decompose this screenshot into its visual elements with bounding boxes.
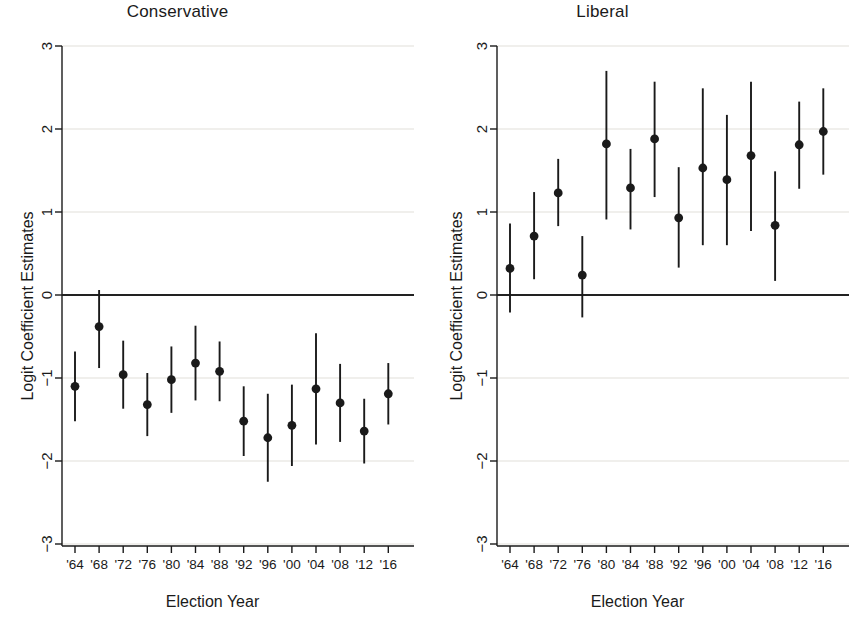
- plot-area-conservative: 3210−1−2−3'64'68'72'76'80'84'88'92'96'00…: [0, 0, 425, 617]
- svg-text:−1: −1: [38, 369, 55, 386]
- svg-text:'96: '96: [259, 557, 277, 572]
- svg-text:−3: −3: [38, 535, 55, 552]
- x-axis-label-liberal: Election Year: [425, 593, 850, 611]
- svg-text:'00: '00: [283, 557, 301, 572]
- svg-text:'76: '76: [574, 557, 592, 572]
- svg-text:'04: '04: [742, 557, 760, 572]
- panel-liberal: Liberal Logit Coefficient Estimates 3210…: [425, 0, 850, 617]
- svg-text:'16: '16: [380, 557, 398, 572]
- svg-text:2: 2: [38, 125, 55, 133]
- svg-text:'84: '84: [622, 557, 640, 572]
- panel-conservative: Conservative Logit Coefficient Estimates…: [0, 0, 425, 617]
- svg-text:'92: '92: [670, 557, 688, 572]
- svg-text:'68: '68: [90, 557, 108, 572]
- svg-text:'12: '12: [790, 557, 808, 572]
- svg-text:−2: −2: [38, 452, 55, 469]
- svg-text:−1: −1: [473, 369, 490, 386]
- x-axis-label-conservative: Election Year: [0, 593, 480, 611]
- svg-text:'80: '80: [163, 557, 181, 572]
- svg-text:'92: '92: [235, 557, 253, 572]
- svg-text:'16: '16: [815, 557, 833, 572]
- svg-text:1: 1: [473, 208, 490, 216]
- svg-text:'88: '88: [211, 557, 229, 572]
- svg-text:'08: '08: [766, 557, 784, 572]
- svg-text:0: 0: [473, 291, 490, 299]
- svg-text:2: 2: [473, 125, 490, 133]
- svg-text:'96: '96: [694, 557, 712, 572]
- svg-text:'72: '72: [549, 557, 567, 572]
- svg-text:'64: '64: [66, 557, 84, 572]
- svg-text:3: 3: [473, 42, 490, 50]
- svg-text:'08: '08: [331, 557, 349, 572]
- svg-text:'12: '12: [355, 557, 373, 572]
- svg-text:'72: '72: [114, 557, 132, 572]
- svg-text:'80: '80: [598, 557, 616, 572]
- svg-text:'76: '76: [139, 557, 157, 572]
- svg-text:−2: −2: [473, 452, 490, 469]
- svg-text:0: 0: [38, 291, 55, 299]
- svg-text:'84: '84: [187, 557, 205, 572]
- svg-text:'88: '88: [646, 557, 664, 572]
- svg-text:−3: −3: [473, 535, 490, 552]
- svg-text:'04: '04: [307, 557, 325, 572]
- svg-text:1: 1: [38, 208, 55, 216]
- svg-text:'00: '00: [718, 557, 736, 572]
- svg-text:'64: '64: [501, 557, 519, 572]
- plot-area-liberal: 3210−1−2−3'64'68'72'76'80'84'88'92'96'00…: [425, 0, 850, 617]
- figure-panel-pair: Conservative Logit Coefficient Estimates…: [0, 0, 850, 617]
- svg-text:3: 3: [38, 42, 55, 50]
- svg-text:'68: '68: [525, 557, 543, 572]
